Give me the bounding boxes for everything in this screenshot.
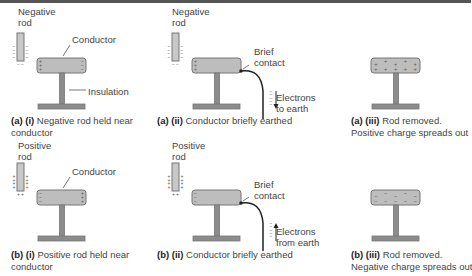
a3-insulating-stem <box>394 73 399 104</box>
a1-rod-label: Negative rod <box>18 6 56 28</box>
b2-contact-label-line1: Brief <box>254 179 285 190</box>
a1-conductor-body <box>37 58 86 73</box>
b2-electron: − <box>270 233 273 239</box>
b2-electrons-label-line2: from earth <box>276 237 319 248</box>
b3-caption-line1: Rod removed. <box>380 249 442 260</box>
a3-caption: (a) (iii) Rod removed. Positive charge s… <box>351 115 468 138</box>
a2-caption: (a) (ii) Conductor briefly earthed <box>157 115 292 127</box>
b1-caption-line2: conductor <box>11 261 129 273</box>
b3-caption: (b) (iii) Rod removed. Negative charge s… <box>351 249 472 272</box>
a3-caption-line1: Rod removed. <box>380 115 442 126</box>
b2-caption-tag: (b) (ii) <box>157 249 183 260</box>
b2-caption: (b) (ii) Conductor briefly earthed <box>157 249 293 261</box>
b2-stand-base <box>193 236 240 241</box>
a3-spread-charge: + <box>404 58 407 64</box>
b2-rod-charge-right: + <box>181 184 184 190</box>
a2-electrons-label-line1: Electrons <box>276 92 316 103</box>
b1-stand-base <box>38 236 85 241</box>
b2-electrons-label-line1: Electrons <box>276 226 319 237</box>
a1-insulating-stem <box>60 73 65 104</box>
b1-rod-charge-left: + <box>13 184 16 190</box>
a3-spread-charge: + <box>374 66 377 72</box>
b3-spread-charge: − <box>394 198 397 204</box>
a2-rod-label-line1: Negative <box>172 6 210 17</box>
b2-electrons-label: Electrons from earth <box>276 226 319 248</box>
b1-rod-charge-bottom: + <box>21 191 24 197</box>
b2-rod-label-line2: rod <box>172 151 205 162</box>
a1-rod-charge-bottom: − <box>21 61 24 67</box>
a3-spread-charge: + <box>404 66 407 72</box>
b1-caption-line1: Positive rod held near <box>35 249 130 260</box>
a2-contact-label-line1: Brief <box>254 46 285 57</box>
a1-rod-label-line1: Negative <box>18 6 56 17</box>
a2-contact-label-line2: contact <box>254 57 285 68</box>
a1-rod <box>17 33 24 61</box>
a2-rod-label: Negative rod <box>172 6 210 28</box>
b1-rod-charge-right: + <box>26 184 29 190</box>
a1-induced-charge-left: + <box>39 66 42 72</box>
a1-caption-line1: Negative rod held near <box>34 115 133 126</box>
a2-caption-line1: Conductor briefly earthed <box>183 115 292 126</box>
b3-spread-charge: − <box>374 198 377 204</box>
a1-conductor-label: Conductor <box>72 34 116 45</box>
a2-electrons-label-line2: to earth <box>276 103 316 114</box>
a3-caption-line2: Positive charge spreads out <box>351 127 468 139</box>
b1-insulating-stem <box>60 205 65 236</box>
a2-rod <box>172 33 179 61</box>
b1-conductor-body <box>37 190 86 205</box>
b2-rod-charge-bottom: + <box>176 191 179 197</box>
a3-spread-charge: + <box>413 66 416 72</box>
a2-electrons-label: Electrons to earth <box>276 92 316 114</box>
a1-caption-line2: conductor <box>11 127 133 139</box>
b2-insulating-stem <box>215 205 220 236</box>
b2-rod-charge-left: + <box>168 184 171 190</box>
b1-induced-charge-right: + <box>81 198 84 204</box>
a3-spread-charge: + <box>384 58 387 64</box>
a2-induced-charge-left: + <box>194 66 197 72</box>
b1-caption: (b) (i) Positive rod held near conductor <box>11 249 129 272</box>
a2-caption-tag: (a) (ii) <box>157 115 183 126</box>
b2-caption-line1: Conductor briefly earthed <box>183 249 292 260</box>
b3-spread-charge: − <box>384 198 387 204</box>
b3-spread-charge: − <box>413 198 416 204</box>
b3-insulating-stem <box>394 205 399 236</box>
b2-rod-label: Positive rod <box>172 140 205 162</box>
a1-insulation-label: Insulation <box>88 86 129 97</box>
b1-induced-charge-left: − <box>39 198 42 204</box>
b2-rod-label-line1: Positive <box>172 140 205 151</box>
a2-rod-charge-left: − <box>168 54 171 60</box>
b1-rod-label-line2: rod <box>18 151 51 162</box>
b3-spread-charge: − <box>404 198 407 204</box>
b2-induced-charge-left: − <box>194 198 197 204</box>
b3-spread-charge: − <box>384 190 387 196</box>
b3-spread-charge: − <box>404 190 407 196</box>
a1-rod-charge-left: − <box>13 54 16 60</box>
a3-caption-tag: (a) (iii) <box>351 115 380 126</box>
b3-stand-base <box>372 236 419 241</box>
a3-stand-base <box>372 104 419 109</box>
a1-conductor-leader <box>63 45 70 56</box>
a1-induced-charge-right: − <box>81 66 84 72</box>
b1-rod-label-line1: Positive <box>18 140 51 151</box>
a2-earth-wire <box>241 71 263 119</box>
a1-caption-tag: (a) (i) <box>11 115 34 126</box>
a1-stand-base <box>38 104 85 109</box>
b2-rod-charge-bottom: + <box>172 191 175 197</box>
b1-rod-label: Positive rod <box>18 140 51 162</box>
b3-caption-line2: Negative charge spreads out <box>351 261 472 273</box>
b2-contact-label-line2: contact <box>254 190 285 201</box>
a2-conductor-body <box>192 58 241 73</box>
b3-caption-tag: (b) (iii) <box>351 249 380 260</box>
a2-rod-charge-bottom: − <box>172 61 175 67</box>
b2-conductor-body <box>192 190 241 205</box>
a2-stand-base <box>193 104 240 109</box>
a2-rod-label-line2: rod <box>172 17 210 28</box>
a2-insulating-stem <box>215 73 220 104</box>
b1-conductor-label: Conductor <box>72 166 116 177</box>
a1-rod-charge-bottom: − <box>17 61 20 67</box>
b1-rod <box>17 163 24 191</box>
a1-rod-charge-right: − <box>26 54 29 60</box>
b1-conductor-leader <box>63 177 70 188</box>
a2-electron: − <box>270 101 273 107</box>
b1-caption-tag: (b) (i) <box>11 249 35 260</box>
